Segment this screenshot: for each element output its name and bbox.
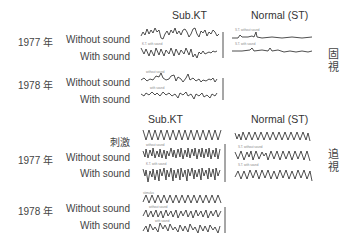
bracket-pur-kt-1978 — [224, 207, 232, 233]
annotation-kt-1978-with: with sound — [150, 86, 165, 90]
fixation-1978-without-sound: Without sound — [48, 77, 130, 88]
pursuit-1977-without-sound: Without sound — [48, 152, 130, 163]
fixation-1978-with-sound: With sound — [48, 94, 130, 105]
bracket-pur-kt-1977 — [224, 144, 232, 182]
annotation-kt-1978-with-pur: with sound — [155, 219, 170, 223]
annotation-st-without-sound: S.T. without sound — [235, 28, 260, 32]
annotation-kt-1978-without-pur: without sound — [149, 205, 168, 209]
fixation-1977-without-sound: Without sound — [48, 34, 130, 45]
trace-fix-st-without: S.T. without sound — [232, 28, 314, 42]
trace-pur-kt-1977-with: K.T. with sound — [143, 162, 223, 184]
trace-pur-kt-stimulus — [143, 128, 223, 142]
fixation-header-subkt: Sub.KT — [172, 9, 207, 21]
trace-pur-kt-1978-stimulus: stimulus — [143, 191, 223, 205]
annotation-pur-st-without: S.T. without sound — [238, 145, 263, 149]
annotation-kt-1978-stimulus: stimulus — [143, 191, 155, 195]
pursuit-header-normal: Normal (ST) — [251, 113, 308, 125]
trace-pur-kt-1978-without: without sound — [143, 205, 223, 219]
fixation-1977-with-sound: With sound — [48, 51, 130, 62]
fixation-section-label: 固視 — [327, 48, 339, 74]
annotation-kt-1978-without: without sound — [146, 70, 165, 74]
trace-fix-kt-1978-without: without sound — [141, 70, 221, 86]
trace-pur-st-without: S.T. without sound — [235, 145, 315, 163]
fixation-header-normal: Normal (ST) — [251, 9, 308, 21]
trace-fix-kt-1978-with: with sound — [141, 86, 221, 102]
pursuit-stimulus-label: 刺激 — [100, 134, 130, 149]
trace-pur-st-stimulus — [235, 129, 315, 143]
pursuit-1977-with-sound: With sound — [48, 168, 130, 179]
pursuit-1978-without-sound: Without sound — [48, 203, 130, 214]
trace-pur-kt-1977-without: without sound — [143, 143, 223, 161]
bracket-fix-kt-1977 — [222, 32, 230, 58]
annotation-pur-st-with: S.T. with sound — [238, 163, 259, 167]
annotation-kt-1977-with: K.T. with sound — [146, 162, 167, 166]
annotation-kt-with-sound: K.T. with sound — [142, 42, 163, 46]
trace-fix-st-with: S.T. with sound — [232, 42, 314, 56]
annotation-st-with-sound: S.T. with sound — [235, 42, 256, 46]
trace-pur-st-with: S.T. with sound — [235, 163, 315, 183]
trace-fix-kt-1977-without — [141, 26, 221, 42]
pursuit-header-subkt: Sub.KT — [148, 113, 183, 125]
trace-pur-kt-1978-with: with sound — [143, 219, 223, 235]
pursuit-section-label: 追視 — [327, 148, 339, 174]
bracket-fix-kt-1978 — [222, 78, 230, 100]
trace-fix-kt-1977-with: K.T. with sound — [141, 42, 221, 60]
pursuit-1978-with-sound: With sound — [48, 220, 130, 231]
annotation-kt-1977-without: without sound — [146, 143, 165, 147]
